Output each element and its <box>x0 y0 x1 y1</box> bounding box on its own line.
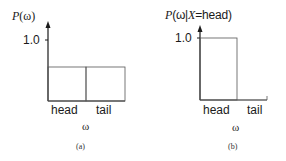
panel-a-prior-distribution: P(ω) 1.0 head tail ω (a) <box>0 0 143 161</box>
panel-b-plot <box>143 0 286 161</box>
y-tick-label: 1.0 <box>175 32 192 44</box>
panel-caption: (a) <box>76 143 85 151</box>
x-axis-label: ω <box>82 121 89 132</box>
panel-caption: (b) <box>228 143 237 151</box>
y-axis-label: P(ω) <box>12 10 35 22</box>
category-label-tail: tail <box>247 104 262 116</box>
panel-b-conditional-distribution: P(ω|X=head) 1.0 head tail ω (b) <box>143 0 286 161</box>
y-axis-arrow-icon <box>46 21 51 28</box>
y-label-condition-value: =head) <box>195 8 232 22</box>
bar-head <box>200 38 237 100</box>
y-axis-arrow-icon <box>198 25 203 32</box>
y-label-arg: (ω) <box>19 9 35 23</box>
bar-tail <box>86 67 125 101</box>
category-label-tail: tail <box>96 104 111 116</box>
y-tick-label: 1.0 <box>23 34 40 46</box>
panel-a-plot <box>0 0 143 161</box>
bar-head <box>48 67 86 101</box>
y-axis-label: P(ω|X=head) <box>165 9 232 21</box>
x-axis-label: ω <box>232 122 239 133</box>
y-label-arg: (ω| <box>172 8 188 22</box>
category-label-head: head <box>51 104 78 116</box>
category-label-head: head <box>203 104 230 116</box>
